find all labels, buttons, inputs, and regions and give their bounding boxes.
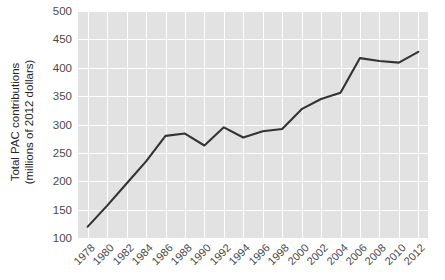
pac-contributions-line <box>88 52 419 227</box>
chart-figure: Total PAC contributions (millions of 201… <box>0 0 445 280</box>
y-axis-tick-labels: 100150200250300350400450500 <box>44 0 76 280</box>
y-axis-tick-label: 350 <box>53 90 72 102</box>
y-axis-tick-label: 450 <box>53 33 72 45</box>
y-axis-tick-label: 100 <box>53 232 72 244</box>
y-axis-tick-label: 150 <box>53 204 72 216</box>
y-axis-tick-label: 200 <box>53 175 72 187</box>
y-axis-tick-label: 400 <box>53 62 72 74</box>
data-series-line <box>78 11 428 238</box>
x-axis-tick-labels: 1978198019821984198619881990199219941996… <box>78 240 428 280</box>
y-axis-tick-label: 500 <box>53 5 72 17</box>
y-axis-tick-label: 300 <box>53 119 72 131</box>
y-axis-label: Total PAC contributions (millions of 201… <box>8 60 36 185</box>
y-axis-tick-label: 250 <box>53 147 72 159</box>
plot-area <box>78 11 428 238</box>
y-axis-label-line-2: (millions of 2012 dollars) <box>22 60 36 185</box>
y-axis-label-container: Total PAC contributions (millions of 201… <box>0 0 44 245</box>
y-axis-label-line-1: Total PAC contributions <box>9 63 21 182</box>
